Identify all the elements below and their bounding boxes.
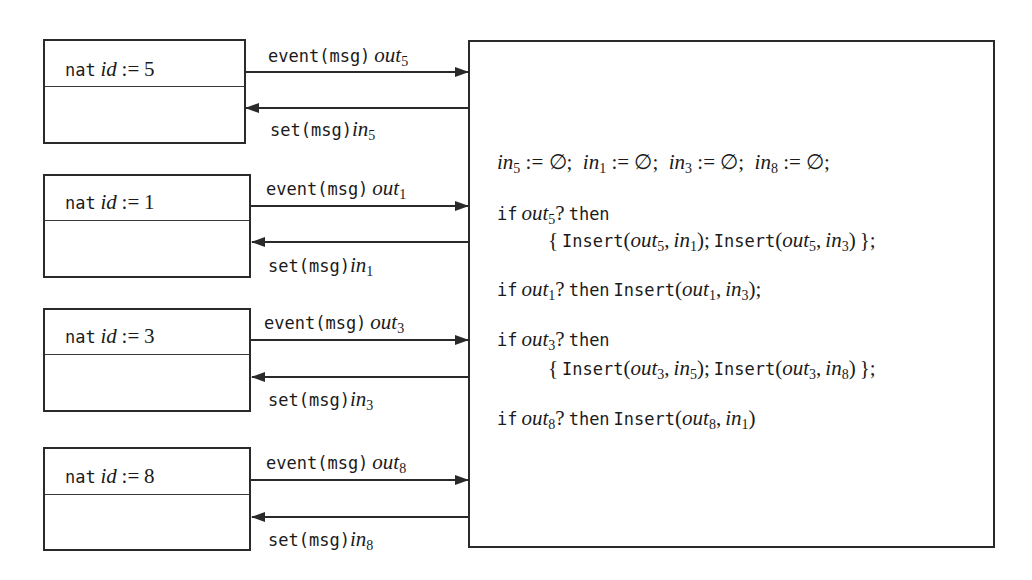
set-arrow-3 [252,376,468,378]
event-arrow-1 [251,205,468,207]
event-label-3: event(msg) out3 [264,310,404,336]
event-arrow-5 [245,71,468,73]
set-label-8: set(msg)in8 [268,527,373,553]
code-rule-out1: if out1? then Insert(out1, in3); [497,276,761,304]
set-label-1: set(msg)in1 [268,253,373,279]
code-rule-out5-body: { Insert(out5, in1); Insert(out5, in3) }… [548,227,876,255]
event-arrow-3 [251,339,468,341]
component-attribute: nat id := 3 [65,324,155,349]
box-divider [45,354,249,355]
component-attribute: nat id := 5 [65,57,155,82]
box-divider [45,86,244,87]
code-init-line: in5 := ∅; in1 := ∅; in3 := ∅; in8 := ∅; [497,149,830,177]
set-arrow-1 [252,241,468,243]
code-rule-out8: if out8? then Insert(out8, in1) [497,405,755,433]
set-arrow-8 [252,516,468,518]
component-box-8: nat id := 8 [43,447,251,551]
code-rule-out3-condition: if out3? then [497,326,610,354]
code-rule-out5-condition: if out5? then [497,200,610,228]
event-arrow-8 [251,479,468,481]
box-divider [45,220,249,221]
code-rule-out3-body: { Insert(out3, in5); Insert(out3, in8) }… [548,355,876,383]
component-box-5: nat id := 5 [43,39,246,144]
set-arrow-5 [246,107,468,109]
set-label-3: set(msg)in3 [268,387,373,413]
component-box-1: nat id := 1 [43,174,251,278]
event-label-1: event(msg) out1 [266,176,406,202]
event-label-8: event(msg) out8 [266,450,406,476]
set-label-5: set(msg)in5 [270,117,375,143]
event-label-5: event(msg) out5 [268,43,408,69]
component-attribute: nat id := 8 [65,464,155,489]
box-divider [45,494,249,495]
component-box-3: nat id := 3 [43,308,251,412]
component-attribute: nat id := 1 [65,190,155,215]
